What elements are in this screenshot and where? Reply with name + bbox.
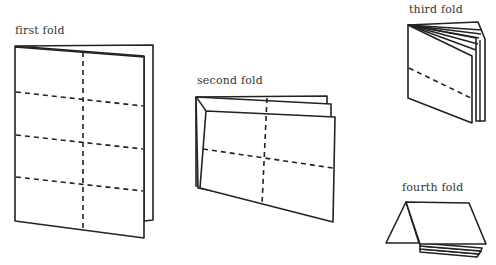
fourth-fold-drawing: [386, 202, 486, 257]
first-fold-drawing: [15, 45, 153, 238]
fold-illustrations: [0, 0, 496, 265]
third-fold-drawing: [408, 22, 485, 123]
second-fold-drawing: [196, 96, 335, 222]
fourth-fold-right-flap: [406, 202, 486, 244]
second-fold-sheet-front: [200, 111, 335, 222]
